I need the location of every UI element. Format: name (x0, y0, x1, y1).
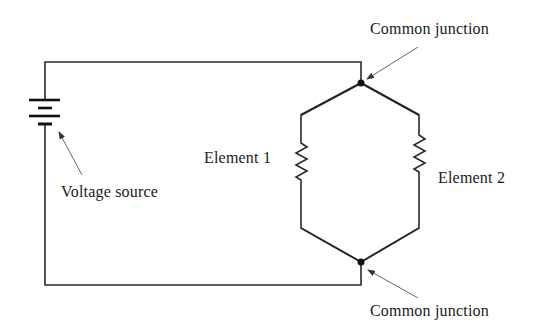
resistor-element-2-icon (414, 115, 425, 228)
outer-loop-wire (45, 62, 361, 285)
parallel-branches (301, 83, 419, 262)
element-1-label: Element 1 (204, 149, 271, 167)
voltage-source-leader-arrow (59, 132, 82, 175)
junction-bottom-label: Common junction (370, 302, 489, 320)
voltage-source-label: Voltage source (61, 183, 158, 201)
element-2-label: Element 2 (438, 169, 505, 187)
battery-icon (29, 100, 60, 124)
circuit-diagram (0, 0, 551, 336)
junction-bottom-leader-arrow (368, 270, 418, 298)
junction-bottom-dot (358, 259, 365, 266)
junction-top-label: Common junction (370, 20, 489, 38)
junction-top-dot (358, 80, 365, 87)
resistor-element-1-icon (296, 115, 307, 228)
junction-top-leader-arrow (367, 47, 418, 79)
